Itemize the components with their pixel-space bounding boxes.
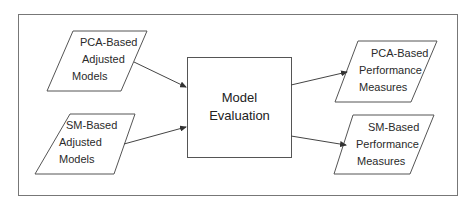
arrow-evaluation-to-pca-measures bbox=[291, 72, 347, 85]
arrow-pca-models-to-evaluation bbox=[134, 62, 186, 87]
arrow-sm-models-to-evaluation bbox=[124, 127, 186, 144]
sm-performance-measures-label: SM-Based Performance Measures bbox=[357, 119, 419, 170]
pca-adjusted-models-label: PCA-Based Adjusted Models bbox=[78, 34, 137, 85]
sm-adjusted-models-label: SM-Based Adjusted Models bbox=[66, 117, 117, 168]
arrow-evaluation-to-sm-measures bbox=[291, 136, 346, 145]
pca-performance-measures-label: PCA-Based Performance Measures bbox=[359, 45, 428, 96]
model-evaluation-label: Model Evaluation bbox=[187, 89, 292, 125]
